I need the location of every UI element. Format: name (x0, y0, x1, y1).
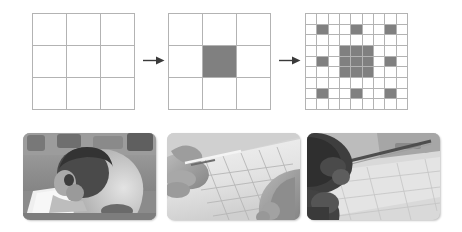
grid-cell-empty (397, 25, 408, 36)
grid-cell-empty (67, 46, 101, 78)
grid-cell-empty (329, 67, 340, 78)
grid-cell-empty (374, 78, 385, 89)
photo-classroom-student (23, 133, 156, 220)
grid-cell-empty (33, 46, 67, 78)
grid-cell-empty (67, 78, 101, 110)
arrow-right-icon-1 (143, 55, 165, 66)
grid-cell-empty (351, 14, 362, 25)
grid-cell-filled (351, 57, 362, 68)
grid-cell-empty (340, 25, 351, 36)
grid-cell-empty (329, 14, 340, 25)
grid-cell-empty (237, 46, 271, 78)
arrow-right-icon-2 (279, 55, 301, 66)
grid-cell-filled (351, 46, 362, 57)
grid-cell-empty (340, 99, 351, 110)
grid-cell-empty (317, 46, 328, 57)
grid-cell-empty (101, 46, 135, 78)
grid-cell-empty (101, 78, 135, 110)
grid-cell-empty (306, 14, 317, 25)
grid-cell-empty (317, 67, 328, 78)
photo-row (0, 120, 462, 232)
grid-cell-filled (363, 46, 374, 57)
grid-cell-empty (363, 35, 374, 46)
grid-cell-empty (329, 89, 340, 100)
grid-cell-empty (385, 99, 396, 110)
grid-cell-empty (385, 67, 396, 78)
grid-cell-empty (306, 35, 317, 46)
grid-cell-empty (397, 35, 408, 46)
grid-cell-empty (329, 25, 340, 36)
grid-cell-empty (317, 35, 328, 46)
grid-cell-empty (363, 78, 374, 89)
grid-cell-filled (385, 57, 396, 68)
grid-cell-empty (374, 57, 385, 68)
grid-cell-empty (237, 78, 271, 110)
grid-cell-filled (385, 89, 396, 100)
grid-cell-empty (374, 99, 385, 110)
grid-cell-empty (317, 78, 328, 89)
grid-cell-empty (351, 35, 362, 46)
grid-cell-empty (340, 78, 351, 89)
grid-cell-empty (397, 78, 408, 89)
grid-cell-empty (351, 99, 362, 110)
grid-cell-empty (363, 89, 374, 100)
photo-student-with-ruler (307, 133, 440, 220)
grid-cell-empty (329, 99, 340, 110)
grid-cell-empty (385, 46, 396, 57)
grid-cell-empty (363, 14, 374, 25)
grid-cell-filled (340, 46, 351, 57)
grid-cell-empty (397, 89, 408, 100)
grid-cell-empty (397, 57, 408, 68)
grid-cell-empty (101, 14, 135, 46)
grid-cell-empty (329, 57, 340, 68)
grid-cell-empty (33, 14, 67, 46)
grid-cell-empty (385, 35, 396, 46)
grid-cell-empty (67, 14, 101, 46)
grid-cell-empty (306, 99, 317, 110)
grid-cell-empty (340, 35, 351, 46)
grid-cell-empty (33, 78, 67, 110)
grid-cell-filled (385, 25, 396, 36)
diagram-row (0, 0, 462, 120)
grid-cell-empty (385, 78, 396, 89)
grid-cell-empty (203, 78, 237, 110)
grid-cell-empty (317, 99, 328, 110)
grid-cell-filled (203, 46, 237, 78)
grid-cell-empty (397, 46, 408, 57)
grid-stage-2 (305, 13, 408, 110)
grid-cell-empty (374, 89, 385, 100)
grid-cell-filled (317, 57, 328, 68)
grid-cell-empty (237, 14, 271, 46)
grid-cell-filled (351, 67, 362, 78)
grid-cell-empty (397, 99, 408, 110)
grid-cell-empty (169, 14, 203, 46)
grid-cell-empty (374, 14, 385, 25)
grid-cell-empty (374, 25, 385, 36)
grid-cell-empty (329, 35, 340, 46)
grid-cell-filled (351, 89, 362, 100)
grid-cell-empty (351, 78, 362, 89)
grid-cell-empty (363, 25, 374, 36)
grid-cell-empty (329, 46, 340, 57)
grid-cell-empty (169, 78, 203, 110)
grid-cell-empty (306, 78, 317, 89)
grid-cell-filled (340, 67, 351, 78)
grid-cell-empty (397, 67, 408, 78)
grid-cell-empty (363, 99, 374, 110)
grid-cell-filled (363, 67, 374, 78)
photo-hands-drawing-grid (167, 133, 300, 220)
grid-cell-empty (397, 14, 408, 25)
grid-cell-empty (203, 14, 237, 46)
grid-cell-empty (306, 25, 317, 36)
grid-stage-1 (168, 13, 271, 110)
grid-cell-empty (374, 67, 385, 78)
grid-cell-empty (317, 14, 328, 25)
grid-cell-empty (306, 89, 317, 100)
grid-cell-empty (385, 14, 396, 25)
grid-cell-filled (317, 25, 328, 36)
grid-stage-0 (32, 13, 135, 110)
grid-cell-empty (306, 67, 317, 78)
grid-cell-empty (374, 35, 385, 46)
grid-cell-filled (317, 89, 328, 100)
grid-cell-empty (306, 46, 317, 57)
